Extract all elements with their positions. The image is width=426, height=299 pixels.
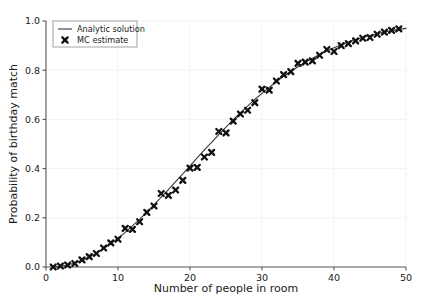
x-axis-label: Number of people in room (154, 282, 299, 295)
plot-area-background (46, 21, 406, 267)
y-tick-label: 1.0 (25, 15, 40, 26)
y-tick-label: 0.8 (25, 65, 40, 76)
y-tick-label: 0.6 (25, 114, 40, 125)
y-axis-label: Probability of birthday match (7, 64, 20, 224)
birthday-problem-plot: 01020304050 0.00.20.40.60.81.0 Number of… (0, 0, 426, 299)
x-tick-label: 10 (112, 272, 124, 283)
chart-figure: 01020304050 0.00.20.40.60.81.0 Number of… (0, 0, 426, 299)
y-tick-label: 0.4 (25, 163, 40, 174)
x-tick-label: 0 (43, 272, 49, 283)
y-tick-label: 0.2 (25, 212, 40, 223)
x-tick-label: 50 (400, 272, 412, 283)
legend-label: MC estimate (77, 35, 128, 45)
legend[interactable]: Analytic solutionMC estimate (53, 21, 145, 47)
x-tick-label: 40 (328, 272, 340, 283)
legend-label: Analytic solution (77, 24, 145, 34)
y-tick-label: 0.0 (25, 261, 40, 272)
